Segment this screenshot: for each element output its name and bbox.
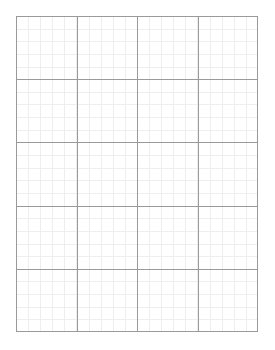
major-grid-lines <box>16 16 258 332</box>
graph-paper-sheet <box>16 16 258 332</box>
grid-outer-border <box>16 16 258 332</box>
page-canvas <box>0 0 275 350</box>
minor-grid-lines <box>16 16 258 332</box>
